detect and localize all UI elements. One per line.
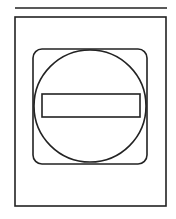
symbol-diagram: [0, 0, 176, 219]
horizontal-bar: [42, 94, 140, 117]
